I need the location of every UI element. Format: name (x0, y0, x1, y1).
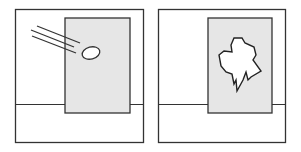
panel-before (16, 10, 144, 143)
diagram-canvas (0, 0, 301, 152)
panel-after (159, 10, 286, 143)
window-pane (65, 18, 130, 113)
